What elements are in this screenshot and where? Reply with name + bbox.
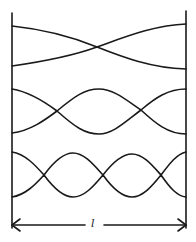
- length-label: l: [91, 218, 95, 229]
- mode-3-curve-b: [12, 175, 186, 197]
- mode-2-envelope: [12, 89, 186, 134]
- mode-2-curve-b: [12, 110, 186, 134]
- length-dimension-arrow: [12, 219, 186, 231]
- mode-3-curve-a: [12, 152, 186, 175]
- mode-3-envelope: [12, 152, 186, 197]
- standing-wave-diagram: [0, 0, 196, 242]
- mode-2-curve-a: [12, 89, 186, 111]
- mode-1-envelope: [12, 24, 186, 69]
